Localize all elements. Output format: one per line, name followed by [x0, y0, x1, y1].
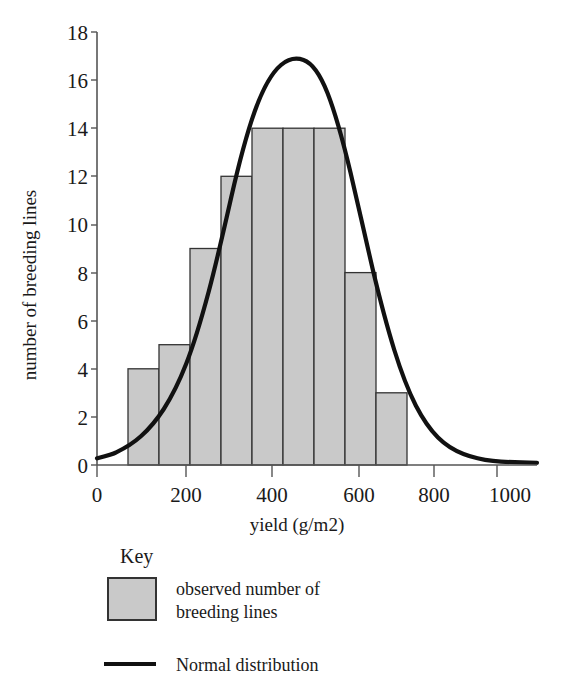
y-tick-label: 2 [78, 406, 89, 430]
y-axis-tick-labels: 18 16 14 12 10 8 6 4 2 0 [67, 21, 89, 478]
x-tick-label: 600 [343, 483, 375, 507]
y-axis-title: number of breeding lines [19, 190, 40, 380]
legend-label-normal: Normal distribution [176, 655, 319, 675]
x-axis-tick-labels: 0 200 400 600 800 1000 [92, 483, 531, 507]
x-axis-title: yield (g/m2) [250, 514, 344, 536]
legend-label-observed-line1: observed number of [176, 579, 320, 599]
y-tick-label: 6 [78, 310, 89, 334]
bar [283, 128, 314, 465]
histogram-bars [128, 128, 407, 465]
chart-canvas: 18 16 14 12 10 8 6 4 2 0 number of bre [0, 0, 579, 698]
bar [128, 369, 159, 465]
y-tick-label: 18 [67, 21, 88, 45]
histogram-chart: 18 16 14 12 10 8 6 4 2 0 number of bre [0, 0, 579, 698]
y-tick-label: 16 [67, 69, 88, 93]
x-tick-label: 1000 [489, 483, 531, 507]
y-tick-label: 14 [67, 117, 89, 141]
legend-title: Key [120, 545, 153, 568]
y-axis [91, 32, 97, 465]
x-tick-label: 200 [170, 483, 202, 507]
legend: Key observed number of breeding lines No… [104, 545, 320, 675]
x-tick-label: 800 [418, 483, 450, 507]
legend-swatch-observed [108, 578, 156, 620]
x-tick-label: 400 [256, 483, 288, 507]
bar [190, 249, 221, 466]
y-tick-label: 4 [78, 358, 89, 382]
legend-label-observed-line2: breeding lines [176, 602, 277, 622]
bar [252, 128, 283, 465]
y-tick-label: 8 [78, 262, 89, 286]
x-axis [97, 465, 537, 477]
x-tick-label: 0 [92, 483, 103, 507]
bar [376, 393, 407, 465]
bar [314, 128, 345, 465]
y-tick-label: 0 [78, 454, 89, 478]
y-tick-label: 12 [67, 165, 88, 189]
y-tick-label: 10 [67, 213, 88, 237]
bar [345, 273, 376, 465]
